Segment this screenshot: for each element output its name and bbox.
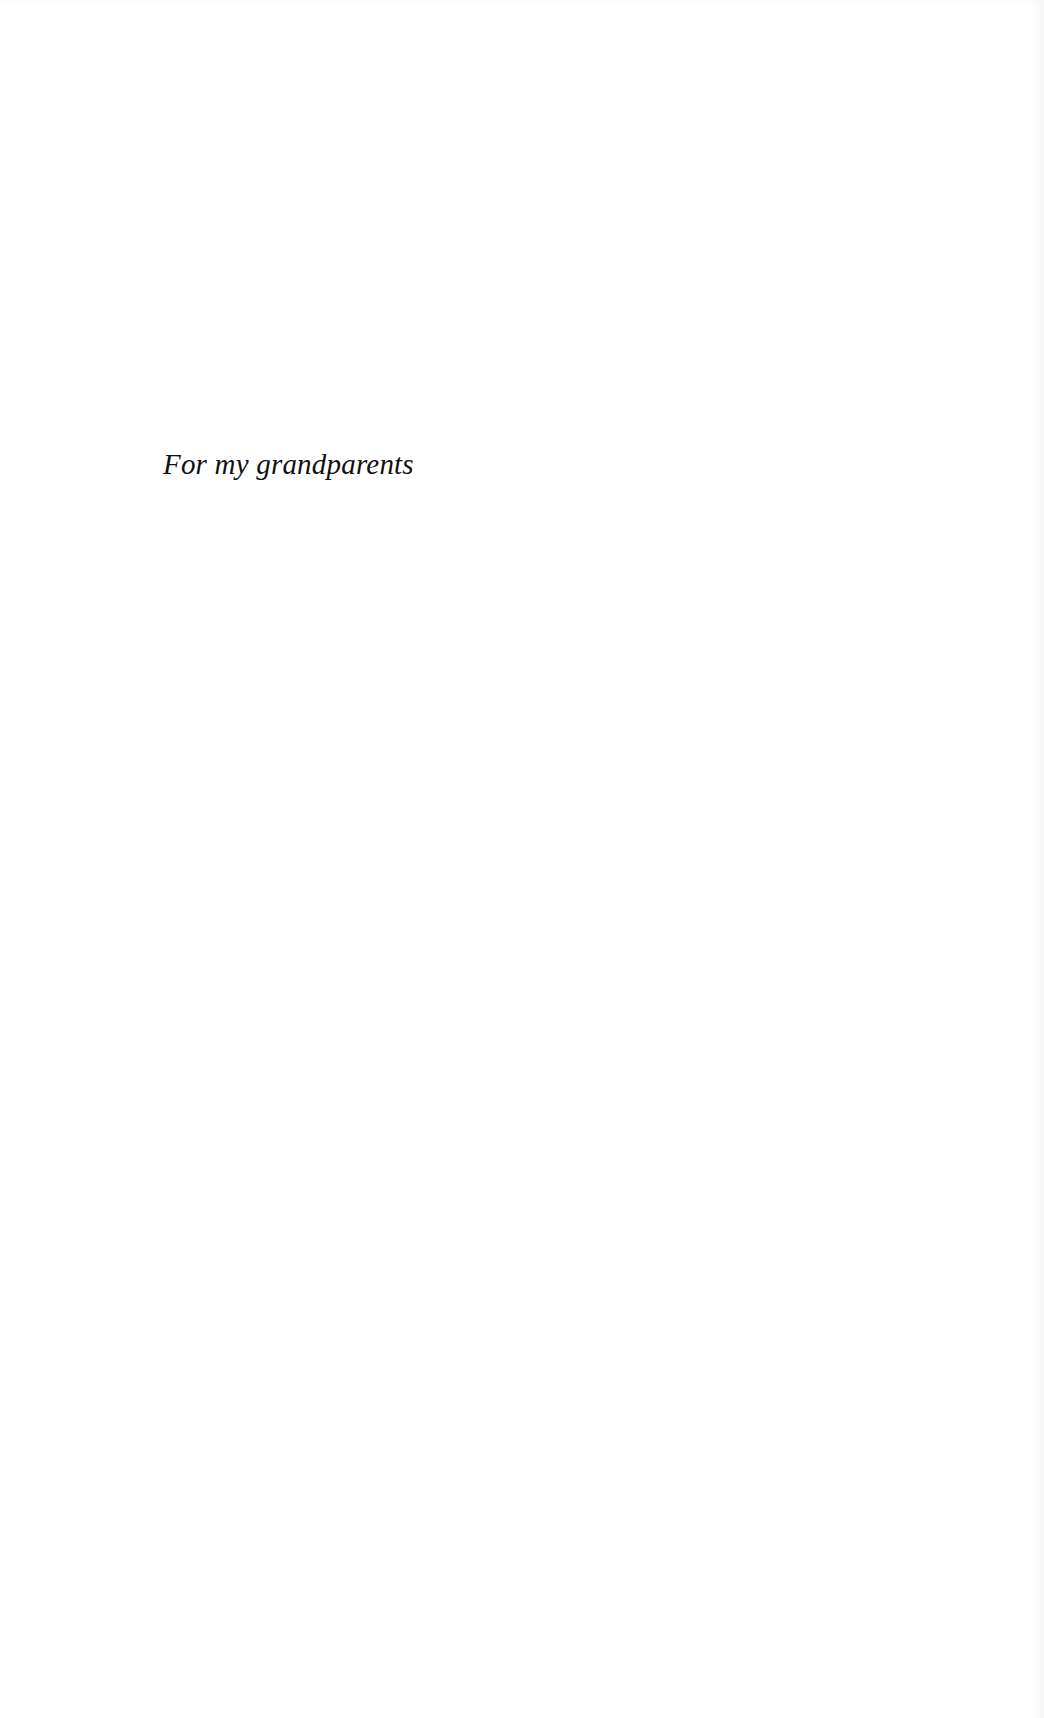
book-page: For my grandparents [0,0,1044,1718]
dedication-text: For my grandparents [163,446,414,482]
